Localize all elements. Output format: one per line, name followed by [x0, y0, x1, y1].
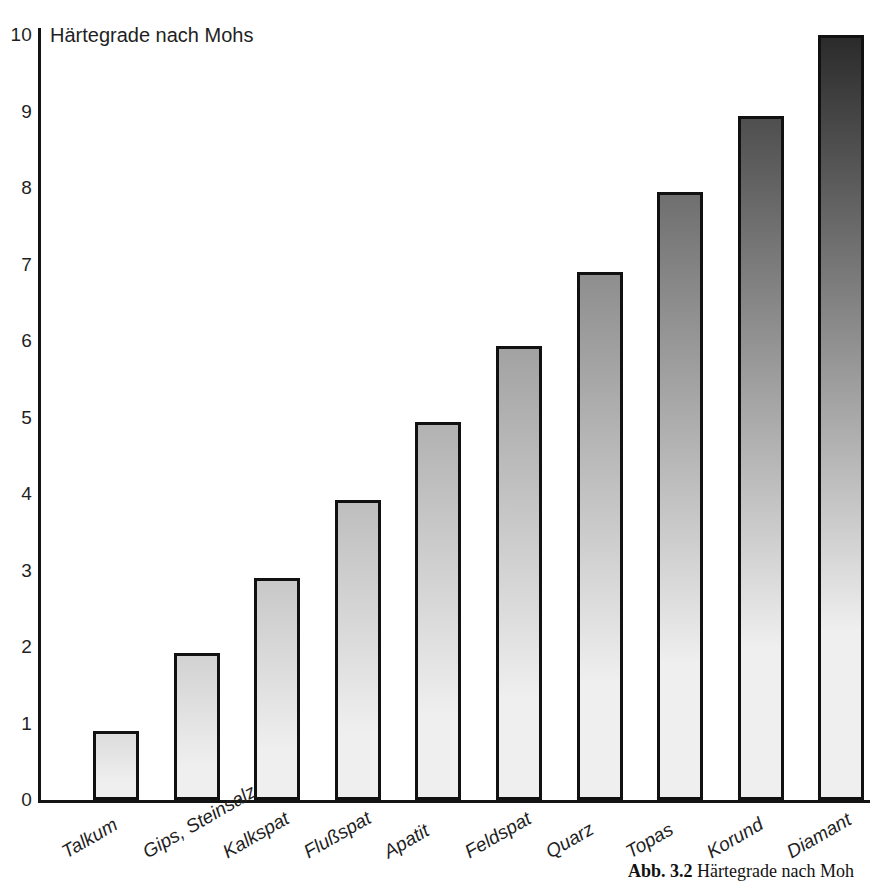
x-label: Diamant: [783, 809, 855, 863]
caption-text: Härtegrade nach Moh: [697, 861, 854, 881]
x-label: Kalkspat: [219, 808, 293, 863]
x-label: Topas: [622, 818, 677, 862]
caption-number: Abb. 3.2: [628, 861, 693, 881]
x-label: Flußspat: [300, 807, 375, 862]
x-label: Talkum: [58, 814, 121, 862]
figure-caption: Abb. 3.2 Härtegrade nach Moh: [628, 861, 854, 882]
x-label: Apatit: [380, 820, 433, 862]
x-label: Feldspat: [461, 808, 535, 863]
x-label: Korund: [703, 813, 767, 862]
x-label: Quarz: [542, 818, 597, 862]
